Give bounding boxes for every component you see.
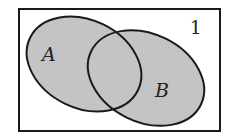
universe-label: 1 (190, 17, 201, 38)
set-a-label: A (40, 43, 56, 65)
venn-diagram: A B 1 (0, 0, 229, 136)
set-b-label: B (154, 79, 169, 101)
